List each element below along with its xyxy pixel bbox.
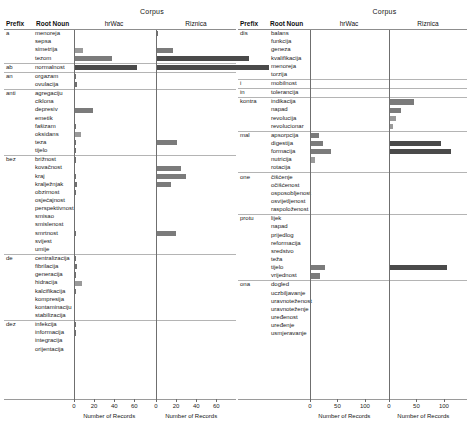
- prefix-label: dis: [240, 30, 248, 36]
- bar-cell-hrwac: [310, 322, 388, 330]
- bar-cell-hrwac: [74, 156, 154, 164]
- bar-cell-hrwac: [74, 321, 154, 329]
- axis-title: Number of Records: [83, 413, 135, 419]
- root-noun-label: smislenost: [35, 221, 63, 227]
- bar-cell-riznica: [156, 172, 236, 180]
- bar: [156, 140, 177, 145]
- root-noun-label: uczbiljavanje: [271, 290, 305, 296]
- root-noun-label: lijek: [271, 215, 281, 221]
- prefix-label: anti: [6, 90, 16, 96]
- prefix-label: a: [6, 30, 9, 36]
- chart-row: nutricija: [238, 156, 467, 164]
- header-prefix: Prefix: [240, 20, 258, 27]
- axis-tick-label: 60: [213, 403, 220, 409]
- root-noun-label: fašizam: [35, 123, 56, 129]
- bar: [74, 48, 83, 53]
- root-noun-label: svijest: [35, 238, 52, 244]
- root-noun-label: tijelo: [271, 264, 283, 270]
- bar-cell-riznica: [156, 73, 236, 81]
- root-noun-label: sepsa: [35, 38, 51, 44]
- bar-cell-riznica: [156, 255, 236, 263]
- bar-cell-riznica: [389, 206, 467, 214]
- bar-cell-riznica: [389, 306, 467, 314]
- bar-cell-hrwac: [310, 148, 388, 156]
- root-noun-label: raspoloženost: [271, 206, 308, 212]
- axis-tick-label: 0: [308, 403, 311, 409]
- bar-cell-riznica: [389, 215, 467, 223]
- chart-row: onadogled: [238, 281, 467, 289]
- chart-row: kompresija: [4, 296, 236, 304]
- chart-row: tijelo: [4, 147, 236, 155]
- bar: [310, 149, 331, 154]
- bar-cell-riznica: [156, 131, 236, 139]
- bar-cell-riznica: [389, 54, 467, 62]
- axis-tick-label: 60: [131, 403, 138, 409]
- chart-row: emetik: [4, 114, 236, 122]
- bar: [389, 99, 414, 104]
- bar-cell-riznica: [156, 263, 236, 271]
- bar-cell-riznica: [156, 139, 236, 147]
- bar-cell-hrwac: [74, 197, 154, 205]
- root-noun-label: prijedlog: [271, 232, 294, 238]
- chart-row: smrtnost: [4, 229, 236, 237]
- bar-cell-hrwac: [74, 304, 154, 312]
- bar-cell-riznica: [156, 304, 236, 312]
- bar-cell-hrwac: [310, 330, 388, 338]
- bar-cell-riznica: [156, 114, 236, 122]
- bar-cell-hrwac: [310, 256, 388, 264]
- chart-row: intolerancija: [238, 89, 467, 97]
- root-noun-label: mobilnost: [271, 80, 297, 86]
- bar-cell-hrwac: [310, 198, 388, 206]
- chart-row: uravnoteženost: [238, 298, 467, 306]
- bar-cell-riznica: [389, 148, 467, 156]
- bar-cell-hrwac: [74, 54, 154, 62]
- chart-row: tijelo: [238, 264, 467, 272]
- bar-cell-hrwac: [310, 272, 388, 280]
- bar-cell-riznica: [156, 90, 236, 98]
- bar: [310, 133, 319, 138]
- bar-cell-riznica: [389, 182, 467, 190]
- axis-tick: [156, 399, 157, 402]
- bar-cell-hrwac: [310, 240, 388, 248]
- root-noun-label: tolerancija: [271, 89, 298, 95]
- axis-tick-label: 40: [193, 403, 200, 409]
- root-noun-label: teža: [271, 256, 282, 262]
- bar-cell-hrwac: [74, 73, 154, 81]
- axis-zero-line-riznica: [389, 30, 390, 399]
- chart-row: kontaminaciju: [4, 304, 236, 312]
- axis-tick-label: 0: [72, 403, 75, 409]
- root-noun-label: uređenje: [271, 322, 294, 328]
- corpus-title-right: Corpus: [302, 8, 467, 15]
- root-noun-label: osposobljenost: [271, 190, 311, 196]
- header-corpus-hrwac: hrWac: [310, 20, 388, 27]
- bar: [74, 108, 93, 113]
- bar-cell-hrwac: [74, 164, 154, 172]
- root-noun-label: smisao: [35, 213, 54, 219]
- prefix-label: kontra: [240, 98, 257, 104]
- root-noun-label: torzija: [271, 71, 287, 77]
- root-noun-label: hidracija: [35, 279, 57, 285]
- axis-tick: [365, 399, 366, 402]
- chart-row: integracija: [4, 337, 236, 345]
- bar-cell-riznica: [389, 156, 467, 164]
- bar-cell-hrwac: [74, 147, 154, 155]
- bar-cell-riznica: [389, 198, 467, 206]
- bar-cell-riznica: [389, 98, 467, 106]
- prefix-label: in: [240, 89, 245, 95]
- prefix-label: ab: [6, 64, 13, 70]
- bar-cell-hrwac: [74, 229, 154, 237]
- chart-row: uravnoteženje: [238, 306, 467, 314]
- chart-row: hidracija: [4, 279, 236, 287]
- bar-cell-hrwac: [310, 231, 388, 239]
- chart-row: kralježnjak: [4, 181, 236, 189]
- axis-tick-label: 40: [111, 403, 118, 409]
- bar-cell-hrwac: [74, 139, 154, 147]
- bar-cell-hrwac: [74, 172, 154, 180]
- axis-rule: [4, 399, 236, 400]
- bar-cell-hrwac: [74, 106, 154, 114]
- chart-row: orijentacija: [4, 345, 236, 353]
- chart-row: abnormalnost: [4, 64, 236, 72]
- root-noun-label: kalcifikacija: [35, 288, 65, 294]
- bar-cell-hrwac: [310, 98, 388, 106]
- bar-cell-riznica: [389, 240, 467, 248]
